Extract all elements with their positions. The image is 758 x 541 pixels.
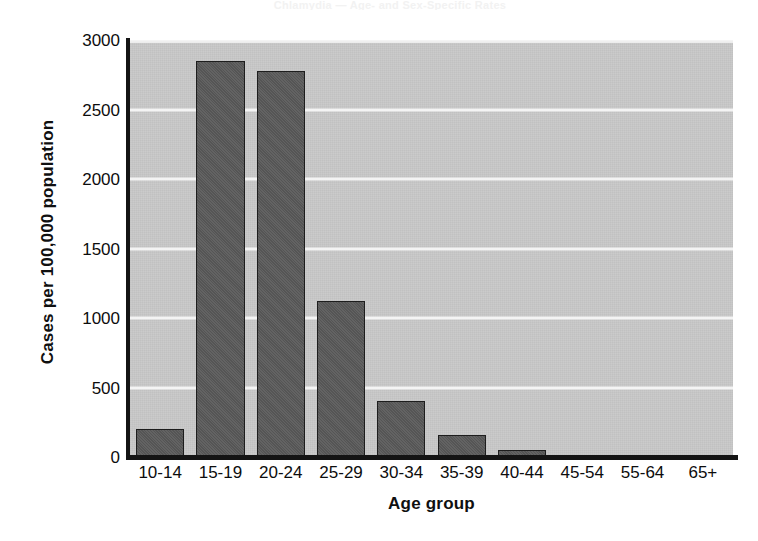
x-tick-label-10-14: 10-14 [138, 462, 181, 484]
bar-30-34[interactable] [377, 401, 425, 457]
x-tick-label-25-29: 25-29 [319, 462, 362, 484]
x-tick-label-15-19: 15-19 [199, 462, 242, 484]
y-tick-label-1500: 1500 [54, 240, 120, 257]
x-tick-label-55-64: 55-64 [621, 462, 664, 484]
x-axis-tick-labels: 10-1415-1920-2425-2930-3435-3940-4445-54… [130, 462, 733, 488]
gridline-3000 [130, 40, 733, 42]
scan-artifact-title: Chlamydia — Age- and Sex-Specific Rates [150, 0, 630, 10]
bar-chart-figure: Chlamydia — Age- and Sex-Specific Rates … [0, 0, 758, 541]
bar-25-29[interactable] [317, 301, 365, 457]
bar-35-39[interactable] [438, 435, 486, 457]
y-tick-label-0: 0 [54, 449, 120, 466]
y-tick-label-2000: 2000 [54, 171, 120, 188]
y-axis-tick-labels: 050010001500200025003000 [54, 40, 120, 457]
x-tick-label-20-24: 20-24 [259, 462, 302, 484]
x-tick-label-35-39: 35-39 [440, 462, 483, 484]
bar-20-24[interactable] [257, 71, 305, 457]
bar-15-19[interactable] [196, 61, 244, 457]
y-tick-label-1000: 1000 [54, 310, 120, 327]
y-axis-line [126, 38, 130, 459]
plot-area [130, 40, 733, 457]
y-tick-label-3000: 3000 [54, 32, 120, 49]
x-tick-label-45-54: 45-54 [561, 462, 604, 484]
x-tick-label-40-44: 40-44 [500, 462, 543, 484]
x-axis-title: Age group [130, 494, 733, 514]
x-tick-label-30-34: 30-34 [380, 462, 423, 484]
y-tick-label-500: 500 [54, 379, 120, 396]
bar-10-14[interactable] [136, 429, 184, 457]
x-axis-line [126, 455, 738, 460]
x-tick-label-65+: 65+ [688, 462, 717, 484]
y-tick-label-2500: 2500 [54, 101, 120, 118]
